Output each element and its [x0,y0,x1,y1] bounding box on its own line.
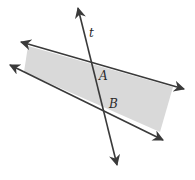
geometry-diagram: t A B [0,0,195,180]
label-point-b: B [108,97,118,111]
label-point-a: A [98,69,108,83]
label-t: t [89,26,94,40]
